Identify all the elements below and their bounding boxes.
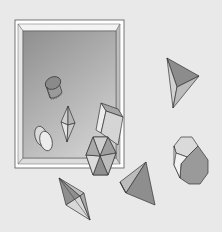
puzzle-scene xyxy=(0,0,222,232)
bipyramid-piece-bottom[interactable] xyxy=(59,178,90,220)
tetrahedron-piece-right[interactable] xyxy=(167,58,199,108)
tetrahedron-piece-bottom[interactable] xyxy=(120,162,155,205)
octagonal-prism-piece[interactable] xyxy=(174,137,208,184)
